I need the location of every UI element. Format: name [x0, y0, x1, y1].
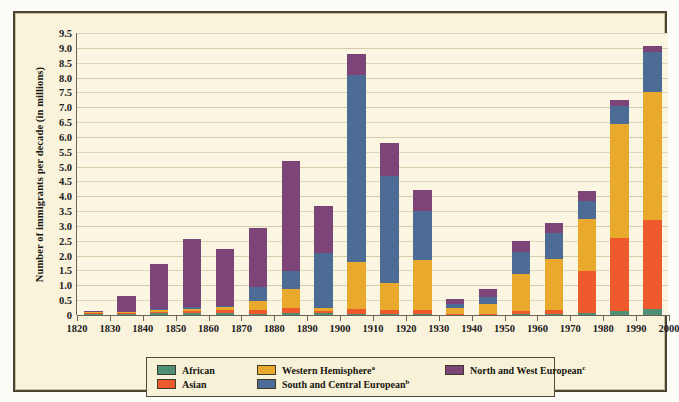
x-axis-tick-mark — [241, 315, 242, 321]
bar-segment-south-and-central-european — [413, 211, 431, 260]
bar-1850s[interactable] — [183, 239, 201, 315]
y-axis-tick-label: 4.0 — [59, 191, 72, 202]
bar-segment-north-and-west-european — [578, 191, 596, 201]
bar-segment-south-and-central-european — [512, 252, 530, 274]
legend-footnote-marker: c — [582, 364, 585, 372]
x-axis-tick-mark — [472, 315, 473, 321]
legend-item-asian[interactable]: Asian — [157, 379, 257, 390]
bar-1940s[interactable] — [479, 289, 497, 315]
x-axis-tick-label: 1830 — [99, 323, 120, 334]
bar-segment-western-hemisphere — [512, 274, 530, 311]
bar-1860s[interactable] — [216, 249, 234, 315]
bar-series-container — [77, 33, 669, 315]
bar-segment-north-and-west-european — [479, 289, 497, 297]
bar-1930s[interactable] — [446, 299, 464, 315]
y-axis-tick-label: 3.5 — [59, 206, 72, 217]
bar-1910s[interactable] — [380, 143, 398, 315]
bar-1990s[interactable] — [643, 46, 661, 315]
y-axis-tick-label: 0.5 — [59, 295, 72, 306]
y-axis-tick-label: 7.0 — [59, 102, 72, 113]
legend-item-north-and-west-european[interactable]: North and West Europeanc — [445, 364, 585, 376]
bar-1890s[interactable] — [314, 205, 332, 315]
bar-segment-north-and-west-european — [314, 206, 332, 253]
x-axis-tick-mark — [77, 315, 78, 321]
y-axis-tick-label: 5.0 — [59, 161, 72, 172]
bar-segment-western-hemisphere — [643, 92, 661, 220]
bar-segment-north-and-west-european — [512, 241, 530, 252]
legend-swatch-icon — [157, 379, 176, 389]
x-axis-tick-label: 1980 — [593, 323, 614, 334]
x-axis-tick-mark — [373, 315, 374, 321]
x-axis-tick-label: 1970 — [560, 323, 581, 334]
x-axis-tick-label: 1990 — [626, 323, 647, 334]
legend-swatch-icon — [157, 365, 176, 375]
bar-1840s[interactable] — [150, 264, 168, 315]
x-axis-tick-label: 1860 — [198, 323, 219, 334]
legend-item-label: Asian — [182, 379, 206, 390]
x-axis-tick-label: 1900 — [330, 323, 351, 334]
bar-segment-north-and-west-european — [380, 143, 398, 176]
x-axis-tick-mark — [570, 315, 571, 321]
bar-segment-asian — [578, 271, 596, 313]
bar-segment-asian — [610, 238, 628, 311]
x-axis-tick-label: 1950 — [494, 323, 515, 334]
bar-segment-south-and-central-european — [347, 75, 365, 262]
y-axis-tick-label: 6.5 — [59, 117, 72, 128]
bar-segment-western-hemisphere — [545, 259, 563, 309]
x-axis-tick-mark — [439, 315, 440, 321]
bar-1970s[interactable] — [578, 191, 596, 315]
bar-1830s[interactable] — [117, 296, 135, 315]
bar-1950s[interactable] — [512, 241, 530, 315]
legend-item-african[interactable]: African — [157, 365, 257, 376]
x-axis-tick-label: 1820 — [67, 323, 88, 334]
bar-1900s[interactable] — [347, 54, 365, 315]
bar-segment-north-and-west-european — [117, 296, 135, 311]
y-axis-tick-label: 3.0 — [59, 220, 72, 231]
bar-segment-north-and-west-european — [216, 249, 234, 305]
y-axis-tick-label: 6.0 — [59, 131, 72, 142]
bar-segment-north-and-west-european — [150, 264, 168, 309]
bar-segment-western-hemisphere — [578, 219, 596, 271]
x-axis-tick-mark — [537, 315, 538, 321]
bar-segment-western-hemisphere — [347, 262, 365, 309]
bar-1880s[interactable] — [282, 161, 300, 315]
bar-segment-western-hemisphere — [282, 289, 300, 308]
bar-1870s[interactable] — [249, 228, 267, 315]
legend-item-label: Western Hemispherea — [282, 364, 375, 376]
y-axis-tick-label: 7.5 — [59, 87, 72, 98]
legend-item-label: North and West Europeanc — [470, 364, 585, 376]
chart-legend: AfricanWestern HemisphereaNorth and West… — [146, 357, 555, 397]
legend-footnote-marker: b — [405, 378, 409, 386]
y-axis-tick-label: 0 — [67, 310, 72, 321]
y-axis-tick-label: 2.0 — [59, 250, 72, 261]
legend-item-label: South and Central Europeanb — [282, 378, 409, 390]
bar-segment-south-and-central-european — [249, 287, 267, 302]
bar-segment-western-hemisphere — [413, 260, 431, 310]
bar-segment-asian — [643, 220, 661, 309]
x-axis-tick-mark — [143, 315, 144, 321]
plot-area: 00.51.01.52.02.53.03.54.04.55.05.56.06.5… — [76, 33, 668, 335]
y-axis-tick-label: 1.0 — [59, 280, 72, 291]
bar-segment-north-and-west-european — [282, 161, 300, 271]
bar-1980s[interactable] — [610, 100, 628, 315]
bar-1920s[interactable] — [413, 190, 431, 315]
legend-item-western-hemisphere[interactable]: Western Hemispherea — [257, 364, 445, 376]
y-axis-tick-label: 9.5 — [59, 28, 72, 39]
bar-segment-north-and-west-european — [183, 239, 201, 306]
y-axis-tick-label: 8.5 — [59, 57, 72, 68]
bar-segment-south-and-central-european — [643, 52, 661, 92]
y-axis-tick-label: 1.5 — [59, 265, 72, 276]
legend-item-south-and-central-european[interactable]: South and Central Europeanb — [257, 378, 445, 390]
grid-box: 00.51.01.52.02.53.03.54.04.55.05.56.06.5… — [76, 33, 668, 315]
x-axis-tick-mark — [636, 315, 637, 321]
x-axis-tick-mark — [209, 315, 210, 321]
legend-footnote-marker: a — [372, 364, 376, 372]
legend-grid: AfricanWestern HemisphereaNorth and West… — [157, 363, 546, 391]
x-axis-tick-mark — [603, 315, 604, 321]
bar-segment-south-and-central-european — [282, 271, 300, 289]
legend-swatch-icon — [257, 379, 276, 389]
legend-swatch-icon — [445, 365, 464, 375]
x-axis-tick-label: 1920 — [395, 323, 416, 334]
bar-1960s[interactable] — [545, 223, 563, 315]
x-axis-tick-label: 2000 — [659, 323, 679, 334]
